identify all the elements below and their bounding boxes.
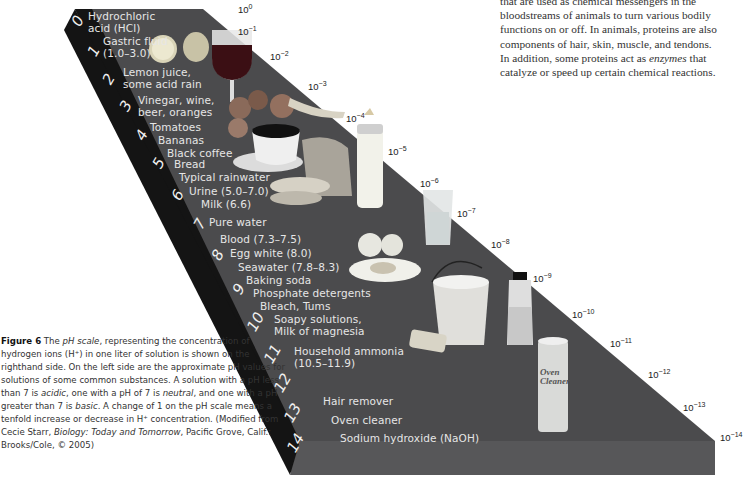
figure-label: Figure 6: [1, 336, 41, 346]
concentration-label: 10−4: [346, 112, 365, 124]
concentration-label: 100: [238, 3, 252, 15]
substance-label: Household ammonia (10.5–11.9): [294, 345, 404, 369]
caption-emphasis: acidic: [41, 388, 66, 398]
substance-label: Bananas: [158, 134, 204, 146]
substance-label: Baking soda: [246, 274, 311, 286]
caption-fragment: , one with a pH of 7 is: [66, 388, 163, 398]
concentration-label: 10−5: [388, 145, 407, 157]
substance-label: Hair remover: [323, 395, 393, 407]
substance-label: Pure water: [209, 216, 267, 228]
concentration-label: 10−10: [572, 308, 594, 320]
substance-label: Hydrochloric acid (HCl): [88, 10, 155, 34]
caption-emphasis: basic: [75, 401, 97, 411]
substance-label: Typical rainwater: [179, 171, 270, 183]
substance-label: Tomatoes: [150, 121, 201, 133]
concentration-label: 10−6: [420, 177, 439, 189]
oven-cleaner-label: Oven Cleaner: [540, 368, 570, 386]
substance-label: Gastric fluid (1.0–3.0): [103, 35, 168, 59]
concentration-label: 10−8: [491, 238, 510, 250]
caption-emphasis: pH scale: [63, 336, 100, 346]
concentration-label: 10−14: [720, 431, 742, 443]
concentration-label: 10−13: [683, 401, 705, 413]
caption-fragment: The: [41, 336, 62, 346]
caption-emphasis: neutral: [163, 388, 194, 398]
substance-label: Milk (6.6): [201, 198, 251, 210]
concentration-label: 10−3: [308, 80, 327, 92]
substance-label: Bread: [174, 158, 205, 170]
substance-label: Blood (7.3–7.5): [220, 233, 301, 245]
concentration-label: 10−1: [238, 25, 257, 37]
slab-front-face: [290, 441, 715, 475]
concentration-label: 10−7: [457, 207, 476, 219]
concentration-label: 10−9: [533, 272, 552, 284]
concentration-label: 10−2: [270, 50, 289, 62]
concentration-label: 10−12: [648, 368, 670, 380]
caption-text: The pH scale, representing the concentra…: [1, 336, 285, 450]
substance-label: Lemon juice, some acid rain: [123, 66, 202, 90]
figure-caption: Figure 6 The pH scale, representing the …: [1, 335, 291, 452]
caption-emphasis: Biology: Today and Tomorrow: [54, 427, 181, 437]
concentration-label: 10−11: [610, 337, 632, 349]
substance-label: Phosphate detergents: [253, 287, 371, 299]
substance-label: Oven cleaner: [331, 414, 402, 426]
substance-label: Bleach, Tums: [260, 300, 331, 312]
glass-of-water: [423, 190, 453, 245]
substance-label: Sodium hydroxide (NaOH): [340, 432, 479, 444]
substance-label: Vinegar, wine, beer, oranges: [138, 94, 214, 118]
substance-label: Seawater (7.8–8.3): [238, 261, 339, 273]
bleach-bottle: [507, 272, 533, 345]
substance-label: Urine (5.0–7.0): [189, 185, 269, 197]
substance-label: Egg white (8.0): [230, 247, 312, 259]
substance-label: Soapy solutions, Milk of magnesia: [274, 313, 365, 337]
